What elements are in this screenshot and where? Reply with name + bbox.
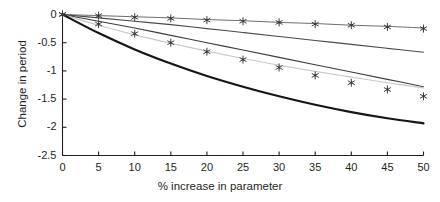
x-tick-label: 20	[192, 162, 222, 173]
axis-lines	[63, 14, 424, 156]
y-tick-label: -1.5	[38, 93, 57, 104]
y-tick-label: -0.5	[38, 37, 57, 48]
y-tick-label: -1	[47, 65, 57, 76]
x-tick-label: 30	[264, 162, 294, 173]
y-tick-label: -2.5	[38, 150, 57, 161]
y-tick-label: -2	[47, 121, 57, 132]
x-tick-label: 35	[300, 162, 330, 173]
x-axis-title: % increase in parameter	[0, 180, 440, 192]
line-series	[63, 15, 424, 124]
chart-figure: 0-0.5-1-1.5-2-2.5 05101520253035404550 %…	[0, 0, 440, 202]
data-series	[63, 15, 424, 124]
x-tick-label: 40	[336, 162, 366, 173]
y-axis-title: Change in period	[16, 14, 28, 154]
tick-marks	[63, 15, 424, 156]
x-tick-label: 45	[372, 162, 402, 173]
x-tick-label: 25	[228, 162, 258, 173]
x-tick-label: 15	[156, 162, 186, 173]
x-tick-label: 0	[48, 162, 78, 173]
x-tick-label: 10	[120, 162, 150, 173]
x-tick-label: 5	[84, 162, 114, 173]
y-tick-label: 0	[50, 9, 56, 20]
x-tick-label: 50	[409, 162, 439, 173]
